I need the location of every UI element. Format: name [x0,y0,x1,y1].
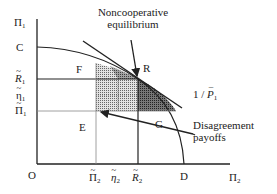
origin-label: O [28,170,36,181]
tick-label-c: C [16,42,23,53]
y-axis-label: Π1 [14,17,25,32]
disagreement-line1: Disagreement [193,119,254,131]
region-label-g: G [155,119,163,130]
equilibrium-arrow [131,40,137,76]
noncooperative-line2: equilibrium [88,18,178,30]
bargaining-diagram: Π1 C R1 η1 Π1 O Π2 η2 R2 D Π2 F E G R 1 … [0,0,277,194]
tick-label-d: D [180,171,188,182]
region-label-e: E [79,122,86,133]
point-label-r: R [143,63,150,74]
tangent-label: 1 / P1 [193,89,217,104]
tick-label-pi2: Π2 [89,172,100,187]
disagreement-line2: payoffs [193,131,254,143]
x-axis-label: Π2 [229,172,240,187]
tick-label-pi1: Π1 [15,105,26,120]
region-label-f: F [76,64,82,75]
disagreement-arrow [101,112,193,134]
disagreement-payoffs-annotation: Disagreement payoffs [193,119,254,143]
tick-label-eta2: η2 [111,172,120,187]
noncooperative-equilibrium-annotation: Noncooperative equilibrium [88,6,178,30]
noncooperative-line1: Noncooperative [88,6,178,18]
tick-label-r2: R2 [132,172,142,187]
